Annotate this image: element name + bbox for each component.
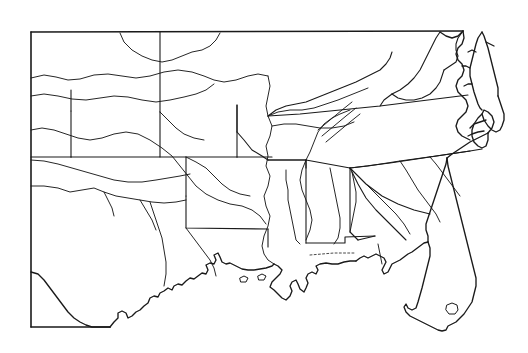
map-canvas [0, 0, 528, 353]
map-background [0, 0, 528, 353]
outline-map-figure [0, 0, 528, 353]
